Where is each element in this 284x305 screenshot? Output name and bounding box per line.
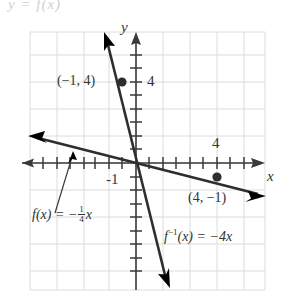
point-label-neg1-4: (−1, 4): [57, 74, 95, 88]
curve-f-arrow-left: [28, 131, 47, 143]
point-label-4-neg1: (4, −1): [188, 191, 226, 205]
equation-f-inverse: f−1(x) = −4x: [164, 228, 232, 244]
equation-f-fraction: 14: [78, 205, 85, 225]
axis-arrowheads: [22, 32, 265, 168]
x-axis-arrow-right: [251, 158, 265, 168]
x-tick-label-4: 4: [212, 136, 220, 151]
y-axis-label: y: [121, 20, 128, 35]
y-tick-label-4: 4: [147, 74, 155, 89]
function-graph: [0, 0, 284, 305]
equation-finv-rest: (x) = −4x: [177, 229, 232, 244]
fraction-denominator: 4: [78, 214, 85, 224]
leader-line-f-label: [55, 151, 77, 213]
point-neg1-4: [117, 77, 126, 86]
point-4-neg1: [212, 172, 221, 181]
equation-f-prefix: f(x) = −: [32, 207, 77, 222]
equation-f-suffix: x: [86, 207, 92, 222]
fraction-numerator: 1: [78, 205, 85, 214]
curve-f-inverse: [104, 32, 170, 288]
y-tick-label-neg1: -1: [106, 172, 119, 187]
equation-f: f(x) = −14x: [32, 205, 92, 225]
x-axis-label: x: [267, 169, 274, 184]
